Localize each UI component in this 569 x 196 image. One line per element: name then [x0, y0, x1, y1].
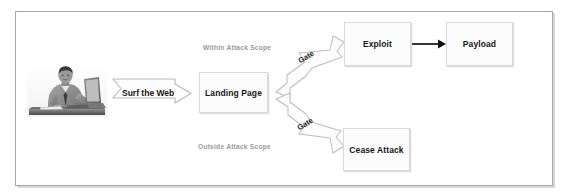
node-payload[interactable]: Payload — [446, 22, 513, 66]
outside-attack-scope-label: Outside Attack Scope — [198, 143, 271, 150]
node-landing-page-label: Landing Page — [205, 88, 262, 98]
node-exploit-label: Exploit — [363, 39, 392, 49]
node-cease-attack-label: Cease Attack — [349, 145, 403, 155]
diagram-canvas: Landing Page Exploit Payload Cease Attac… — [0, 0, 569, 196]
node-payload-label: Payload — [463, 39, 496, 49]
node-exploit[interactable]: Exploit — [344, 22, 411, 66]
surf-the-web-label: Surf the Web — [122, 88, 174, 98]
within-attack-scope-label: Within Attack Scope — [203, 44, 271, 51]
node-landing-page[interactable]: Landing Page — [199, 72, 268, 113]
node-cease-attack[interactable]: Cease Attack — [343, 128, 410, 171]
user-at-computer-photo — [27, 65, 107, 117]
